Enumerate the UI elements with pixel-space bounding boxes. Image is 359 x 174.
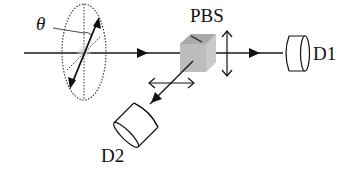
horizontal-polarization-arrow bbox=[149, 78, 194, 88]
detector-d1 bbox=[286, 36, 310, 71]
d2-label: D2 bbox=[101, 146, 124, 165]
theta-label: θ bbox=[36, 14, 45, 33]
beam-direction-arrow-icon bbox=[137, 48, 148, 58]
detector-d2 bbox=[111, 101, 160, 150]
optical-setup-diagram: θ PBS D1 D2 bbox=[0, 0, 359, 174]
pbs-cube bbox=[180, 34, 216, 72]
main-beam bbox=[24, 48, 283, 58]
pbs-label: PBS bbox=[190, 6, 224, 25]
d1-label: D1 bbox=[313, 44, 336, 63]
polarization-ellipse bbox=[53, 4, 106, 100]
beam-direction-arrow-icon bbox=[249, 48, 260, 58]
diagram-canvas bbox=[0, 0, 359, 174]
